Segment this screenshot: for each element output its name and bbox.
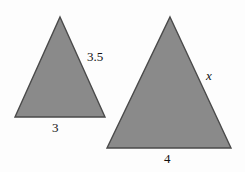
large-triangle-base-label: 4 (164, 152, 171, 165)
triangles-canvas (0, 0, 245, 172)
small-triangle-base-label: 3 (52, 121, 59, 134)
small-triangle-hypotenuse-label: 3.5 (87, 50, 103, 63)
large-triangle-hypotenuse-label: x (206, 69, 212, 82)
similar-triangles-figure: 3.5 3 x 4 (0, 0, 245, 172)
